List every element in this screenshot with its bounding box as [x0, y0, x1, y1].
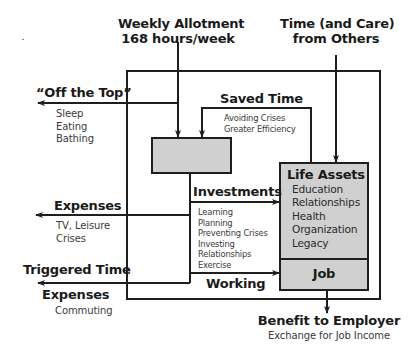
list-item: Eating [56, 121, 94, 134]
triggered-expenses-title: Expenses [42, 287, 109, 302]
list-item: Learning [198, 207, 268, 218]
triggered-time-title: Triggered Time [23, 262, 131, 277]
off-the-top-list: Sleep Eating Bathing [56, 108, 94, 146]
time-from-others-line1: Time (and Care) [280, 16, 392, 31]
expenses-list: TV, Leisure Crises [56, 220, 110, 245]
list-item: Planning [198, 218, 268, 229]
expenses-title: Expenses [54, 198, 121, 213]
list-item: Exercise [198, 260, 268, 271]
investments-title: Investments [193, 184, 282, 199]
triggered-list: Commuting [55, 305, 112, 318]
list-item: Legacy [292, 237, 360, 250]
time-from-others-label: Time (and Care) from Others [280, 16, 392, 46]
list-item: Investing [198, 239, 268, 250]
list-item: Sleep [56, 108, 94, 121]
life-assets-title: Life Assets [287, 167, 365, 182]
working-title: Working [206, 276, 265, 291]
list-item: Crises [56, 233, 110, 246]
list-item: TV, Leisure [56, 220, 110, 233]
list-item: Health [292, 210, 360, 223]
weekly-allotment-label: Weekly Allotment 168 hours/week [118, 16, 238, 46]
weekly-allotment-title: Weekly Allotment [118, 16, 238, 31]
benefit-title: Benefit to Employer [250, 313, 408, 328]
life-assets-list: Education Relationships Health Organizat… [292, 183, 360, 250]
list-item: Commuting [55, 305, 112, 318]
list-item: Relationships [292, 196, 360, 209]
list-item: Bathing [56, 133, 94, 146]
off-the-top-title: “Off the Top” [36, 85, 132, 100]
time-from-others-line2: from Others [280, 31, 392, 46]
weekly-time-pool-box [152, 138, 231, 173]
list-item: Avoiding Crises [224, 113, 295, 124]
benefit-subtitle: Exchange for Job Income [250, 330, 408, 343]
list-item: Education [292, 183, 360, 196]
job-title: Job [280, 266, 368, 281]
list-item: Relationships [198, 249, 268, 260]
list-item: Preventing Crises [198, 228, 268, 239]
saved-time-list: Avoiding Crises Greater Efficiency [224, 113, 295, 134]
weekly-allotment-subtitle: 168 hours/week [118, 31, 238, 46]
list-item: Greater Efficiency [224, 124, 295, 135]
saved-time-title: Saved Time [220, 91, 303, 106]
list-item: Organization [292, 223, 360, 236]
investments-list: Learning Planning Preventing Crises Inve… [198, 207, 268, 271]
